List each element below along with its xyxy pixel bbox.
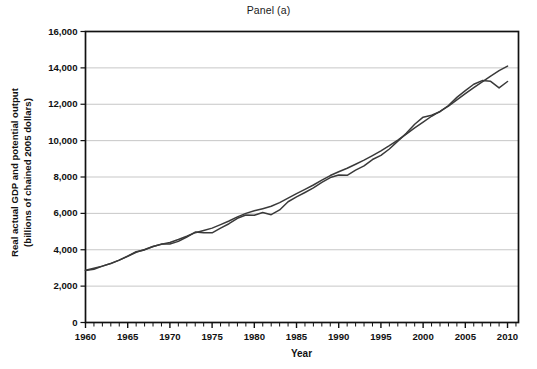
x-tick-label: 1975: [192, 331, 232, 342]
y-tick-label: 2,000: [30, 280, 78, 291]
x-tick-label: 2005: [445, 331, 485, 342]
chart-figure: Panel (a) Real actual GDP and potential …: [0, 0, 537, 369]
x-tick-label: 1965: [108, 331, 148, 342]
x-tick-label: 1970: [150, 331, 190, 342]
x-tick-label: 1990: [319, 331, 359, 342]
y-tick-label: 12,000: [30, 98, 78, 109]
y-tick-label: 16,000: [30, 26, 78, 37]
series-line-1: [86, 66, 508, 270]
data-series-lines: [86, 66, 508, 270]
y-tick-label: 10,000: [30, 135, 78, 146]
y-tick-label: 0: [30, 317, 78, 328]
x-tick-label: 1985: [277, 331, 317, 342]
y-tick-label: 8,000: [30, 171, 78, 182]
y-tick-label: 4,000: [30, 244, 78, 255]
plot-area: [0, 0, 537, 369]
x-tick-label: 1995: [361, 331, 401, 342]
x-tick-label: 1960: [66, 331, 106, 342]
x-tick-label: 2010: [488, 331, 528, 342]
y-tick-label: 6,000: [30, 207, 78, 218]
x-tick-label: 2000: [403, 331, 443, 342]
y-tick-label: 14,000: [30, 62, 78, 73]
x-tick-label: 1980: [234, 331, 274, 342]
